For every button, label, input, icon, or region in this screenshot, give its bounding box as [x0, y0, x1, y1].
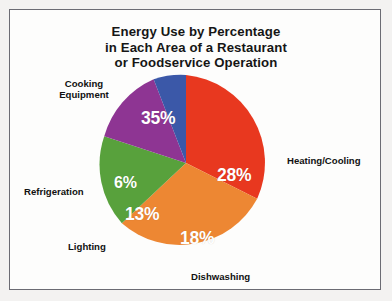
pie-value-heating-cooling: 28%	[217, 165, 251, 186]
pie-value-refrigeration: 6%	[114, 174, 137, 192]
pie-chart: 35% 28% 18% 13% 6% Cooking Equipment Hea…	[10, 10, 382, 291]
pie-value-cooking-equipment: 35%	[141, 108, 175, 129]
pie-label-cooking-equipment: Cooking Equipment	[48, 78, 120, 100]
pie-value-dishwashing: 18%	[180, 228, 214, 249]
pie-label-heating-cooling: Heating/Cooling	[287, 155, 361, 166]
pie-svg	[96, 73, 276, 253]
pie-label-refrigeration: Refrigeration	[24, 186, 84, 197]
pie-value-lighting: 13%	[125, 204, 159, 225]
pie-label-dishwashing: Dishwashing	[191, 271, 250, 282]
pie-label-lighting: Lighting	[68, 241, 106, 252]
chart-page: Energy Use by Percentage in Each Area of…	[0, 0, 392, 301]
chart-frame: Energy Use by Percentage in Each Area of…	[9, 9, 381, 290]
